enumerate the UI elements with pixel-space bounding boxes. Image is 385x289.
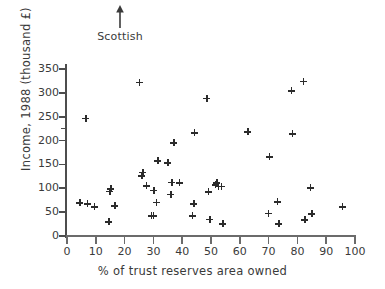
data-point-marker <box>164 159 171 166</box>
data-point-marker <box>153 199 160 206</box>
data-point-marker <box>218 183 225 190</box>
data-point-marker <box>289 130 296 137</box>
x-tick-label: 20 <box>110 246 140 257</box>
x-tick-mark <box>153 237 155 244</box>
y-tick-label: 50 <box>19 206 59 217</box>
data-point-marker <box>274 198 281 205</box>
x-tick-label: 30 <box>138 246 168 257</box>
x-tick-mark <box>239 237 241 244</box>
data-point-marker <box>191 129 198 136</box>
data-point-marker <box>111 202 118 209</box>
y-tick-mark <box>59 235 66 237</box>
data-point-marker <box>265 210 272 217</box>
data-point-marker <box>176 179 183 186</box>
x-tick-label: 80 <box>282 246 312 257</box>
up-arrow-icon <box>113 4 127 28</box>
data-point-marker <box>189 212 196 219</box>
x-tick-mark <box>354 237 356 244</box>
y-tick-mark-minor <box>61 128 66 130</box>
data-point-marker <box>82 115 89 122</box>
data-point-marker <box>266 153 273 160</box>
data-point-marker <box>308 210 315 217</box>
x-tick-mark <box>181 237 183 244</box>
y-tick-label: 0 <box>19 230 59 241</box>
data-point-marker <box>105 218 112 225</box>
y-tick-mark <box>59 187 66 189</box>
x-tick-label: 70 <box>254 246 284 257</box>
data-point-marker <box>307 184 314 191</box>
plot-data-area <box>67 66 355 236</box>
y-tick-label: 250 <box>19 111 59 122</box>
data-point-marker <box>301 216 308 223</box>
data-point-marker <box>154 157 161 164</box>
y-tick-label: 150 <box>19 158 59 169</box>
data-point-marker <box>148 212 155 219</box>
data-point-marker <box>170 139 177 146</box>
data-point-marker <box>143 182 150 189</box>
data-point-marker <box>215 183 222 190</box>
data-point-marker <box>244 128 251 135</box>
x-tick-mark <box>297 237 299 244</box>
data-point-marker <box>206 216 213 223</box>
data-point-marker <box>300 78 307 85</box>
x-tick-label: 10 <box>81 246 111 257</box>
y-tick-mark <box>59 92 66 94</box>
data-point-marker <box>150 212 157 219</box>
scottish-annotation: Scottish <box>60 4 180 43</box>
data-point-marker <box>167 191 174 198</box>
y-tick-label: 300 <box>19 87 59 98</box>
data-point-marker <box>339 203 346 210</box>
x-tick-label: 50 <box>196 246 226 257</box>
data-point-marker <box>107 185 114 192</box>
x-tick-mark <box>124 237 126 244</box>
y-tick-mark <box>59 211 66 213</box>
data-point-marker <box>136 79 143 86</box>
data-point-marker <box>91 203 98 210</box>
data-point-marker <box>213 179 220 186</box>
y-tick-mark <box>59 68 66 70</box>
data-point-marker <box>138 172 145 179</box>
x-tick-mark <box>66 237 68 244</box>
data-point-marker <box>106 188 113 195</box>
data-point-marker <box>139 169 146 176</box>
data-point-marker <box>275 220 282 227</box>
x-tick-mark <box>325 237 327 244</box>
data-point-marker <box>288 87 295 94</box>
x-tick-mark <box>268 237 270 244</box>
scatter-plot-figure: Scottish Income, 1988 (thousand £) % of … <box>0 0 385 289</box>
x-tick-label: 60 <box>225 246 255 257</box>
y-tick-mark <box>59 164 66 166</box>
y-tick-label: 350 <box>19 63 59 74</box>
y-tick-label: 200 <box>19 135 59 146</box>
data-point-marker <box>84 200 91 207</box>
annotation-label: Scottish <box>60 30 180 43</box>
data-point-marker <box>203 95 210 102</box>
y-tick-label: 100 <box>19 182 59 193</box>
x-tick-label: 40 <box>167 246 197 257</box>
data-point-marker <box>212 181 219 188</box>
data-point-marker <box>219 220 226 227</box>
x-axis-title: % of trust reserves area owned <box>0 264 385 278</box>
x-tick-label: 90 <box>311 246 341 257</box>
data-point-marker <box>150 187 157 194</box>
data-point-marker <box>76 199 83 206</box>
data-point-marker <box>168 179 175 186</box>
y-tick-mark <box>59 116 66 118</box>
data-point-marker <box>205 188 212 195</box>
y-tick-mark <box>59 140 66 142</box>
x-tick-mark <box>95 237 97 244</box>
x-tick-label: 100 <box>340 246 370 257</box>
data-point-marker <box>190 200 197 207</box>
x-tick-label: 0 <box>52 246 82 257</box>
x-tick-mark <box>210 237 212 244</box>
